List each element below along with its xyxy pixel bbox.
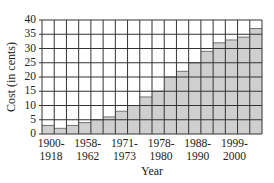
y-tick-label: 10	[16, 99, 36, 111]
bar	[140, 97, 152, 134]
x-tick-label: 1999-2000	[214, 137, 254, 163]
postage-cost-bar-chart: Cost (in cents) 0510152025303540 1900-19…	[0, 0, 274, 183]
bar	[250, 29, 262, 134]
x-tick-label: 1978-1980	[141, 137, 181, 163]
bar	[54, 128, 66, 134]
bar	[91, 120, 103, 134]
bar	[189, 63, 201, 134]
x-tick-label: 1988-1990	[178, 137, 218, 163]
bar	[152, 91, 164, 134]
bar	[42, 125, 54, 134]
y-tick-label: 30	[16, 42, 36, 54]
bar	[213, 43, 225, 134]
bar	[79, 123, 91, 134]
x-tick-label: 1958-1962	[68, 137, 108, 163]
x-axis-label: Year	[122, 164, 182, 179]
x-tick-label: 1971-1973	[104, 137, 144, 163]
y-tick-label: 35	[16, 27, 36, 39]
y-tick-label: 40	[16, 13, 36, 25]
y-tick-label: 20	[16, 70, 36, 82]
y-tick-label: 5	[16, 113, 36, 125]
bar	[66, 125, 78, 134]
y-tick-label: 25	[16, 56, 36, 68]
bar	[115, 111, 127, 134]
bar	[201, 51, 213, 134]
y-tick-label: 15	[16, 84, 36, 96]
x-tick-label: 1900-1918	[31, 137, 71, 163]
bar	[176, 71, 188, 134]
